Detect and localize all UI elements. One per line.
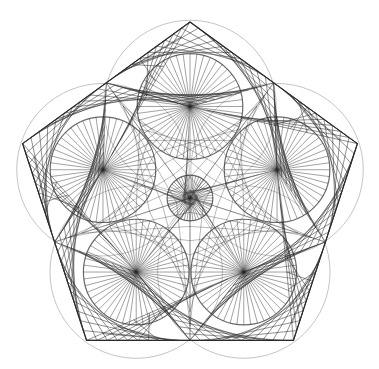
geometric-drawing <box>0 0 379 369</box>
